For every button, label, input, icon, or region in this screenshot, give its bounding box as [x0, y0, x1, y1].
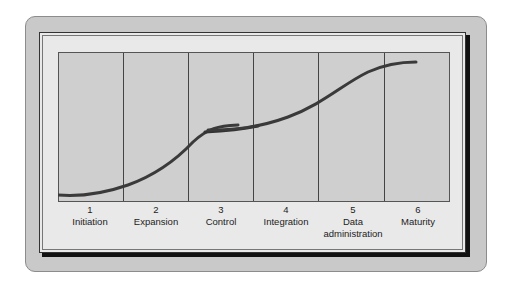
stage-name: Control	[188, 216, 254, 228]
stage-number: 4	[253, 204, 319, 216]
stage-name: Maturity	[385, 216, 451, 228]
stage-label-3: 3 Control	[188, 204, 254, 228]
stage-label-6: 6 Maturity	[385, 204, 451, 228]
stage-number: 6	[385, 204, 451, 216]
stage-number: 2	[123, 204, 189, 216]
stage-name: Expansion	[123, 216, 189, 228]
stage-name-line2: administration	[318, 228, 388, 240]
stage-number: 1	[57, 204, 123, 216]
growth-s-curve	[58, 52, 450, 202]
stage-label-5: 5 Data administration	[318, 204, 388, 240]
stage-name: Integration	[253, 216, 319, 228]
stage-label-2: 2 Expansion	[123, 204, 189, 228]
stage-label-4: 4 Integration	[253, 204, 319, 228]
stage-label-1: 1 Initiation	[57, 204, 123, 228]
stage-name: Initiation	[57, 216, 123, 228]
stage-number: 3	[188, 204, 254, 216]
stage-number: 5	[318, 204, 388, 216]
stage-name: Data	[318, 216, 388, 228]
